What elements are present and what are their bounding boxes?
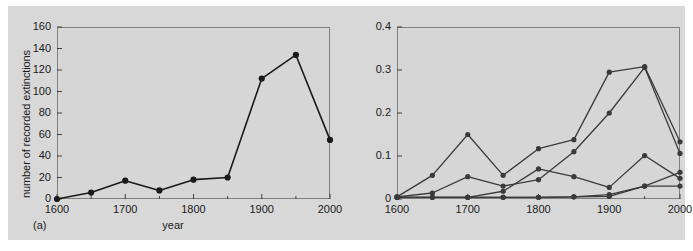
panel-a: number of recorded extinctions year (a) … [0, 0, 345, 251]
y-tick-label: 60 [15, 128, 51, 140]
x-tick-label: 1900 [240, 203, 284, 215]
y-tick-label: 160 [15, 20, 51, 32]
x-tick-label: 1800 [517, 203, 561, 215]
x-tick-label: 1600 [375, 203, 419, 215]
y-tick-label: 100 [15, 85, 51, 97]
y-tick-label: 0.1 [355, 149, 391, 161]
y-tick-label: 0.4 [355, 20, 391, 32]
x-tick-label: 1700 [446, 203, 490, 215]
y-tick-label: 140 [15, 42, 51, 54]
y-tick-label: 80 [15, 106, 51, 118]
y-tick-label: 20 [15, 171, 51, 183]
x-tick-label: 1900 [587, 203, 631, 215]
y-tick-label: 40 [15, 149, 51, 161]
x-tick-label: 1800 [172, 203, 216, 215]
y-tick-label: 0.3 [355, 63, 391, 75]
panel-a-tag: (a) [33, 219, 46, 231]
figure-container: number of recorded extinctions year (a) … [0, 0, 693, 251]
y-tick-label: 0.2 [355, 106, 391, 118]
y-tick-label: 120 [15, 63, 51, 75]
x-tick-label: 1700 [103, 203, 147, 215]
x-tick-label: 2000 [658, 203, 693, 215]
panel-b: taxonomic extinction/% birdsmammalsrepti… [345, 0, 693, 251]
panel-a-x-axis-label: year [162, 219, 183, 231]
x-tick-label: 1600 [35, 203, 79, 215]
